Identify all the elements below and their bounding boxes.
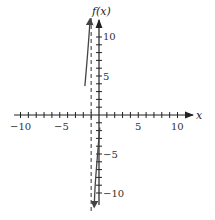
x-axis-label: x	[196, 109, 203, 122]
y-tick-label-5: 5	[103, 71, 109, 82]
y-axis-label: f(x)	[91, 5, 111, 18]
x-tick-label-5: 5	[135, 121, 141, 132]
y-tick-label-10: 10	[103, 31, 116, 42]
x-tick-label-neg10: −10	[10, 121, 31, 132]
y-tick-label-neg5: −5	[103, 149, 118, 160]
y-tick-label-neg10: −10	[103, 188, 124, 199]
x-tick-label-10: 10	[171, 121, 184, 132]
x-tick-label-neg5: −5	[54, 121, 69, 132]
function-graph: −10 −5 5 10 10 5 −5 −10 x f(x)	[0, 0, 215, 220]
curve-left-branch	[85, 21, 90, 86]
